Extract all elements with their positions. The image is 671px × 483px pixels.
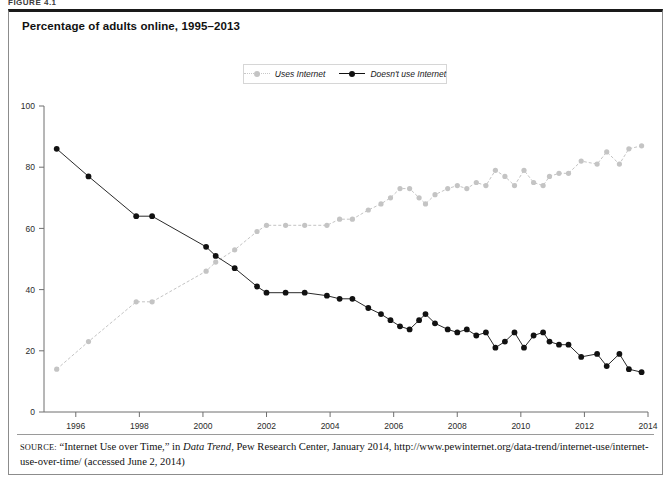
x-axis-tick-label: 2006 — [384, 421, 403, 431]
figure-page: FIGURE 4.1 Percentage of adults online, … — [0, 0, 671, 483]
data-point — [604, 149, 609, 154]
x-axis-tick-label: 2008 — [448, 421, 467, 431]
data-point — [254, 284, 260, 290]
data-point — [324, 223, 329, 228]
data-point — [86, 174, 92, 180]
line-chart: 0204060801001996199820002002200420062008… — [0, 0, 671, 483]
data-point — [445, 186, 450, 191]
data-point — [464, 186, 469, 191]
data-point — [203, 244, 209, 250]
data-point — [150, 299, 155, 304]
series-line — [57, 149, 642, 372]
data-point — [541, 183, 546, 188]
data-point — [324, 293, 330, 299]
data-point — [54, 146, 60, 152]
data-point — [502, 174, 507, 179]
data-point — [378, 201, 383, 206]
data-point — [213, 253, 219, 259]
data-point — [337, 217, 342, 222]
data-point — [302, 290, 308, 296]
y-axis-tick-label: 0 — [30, 407, 35, 417]
data-point — [454, 330, 460, 336]
data-point — [547, 174, 552, 179]
data-point — [521, 345, 527, 351]
data-point — [493, 345, 499, 351]
data-point — [134, 299, 139, 304]
data-point — [264, 290, 270, 296]
data-point — [54, 367, 59, 372]
data-point — [232, 265, 238, 271]
y-axis-tick-label: 60 — [26, 224, 36, 234]
data-point — [464, 327, 470, 333]
data-point — [594, 351, 600, 357]
data-point — [416, 317, 422, 323]
data-point — [264, 223, 269, 228]
data-point — [388, 195, 393, 200]
x-axis-tick-label: 2014 — [639, 421, 658, 431]
data-point — [626, 146, 631, 151]
x-axis-tick-label: 2010 — [511, 421, 530, 431]
data-point — [423, 311, 429, 317]
data-point — [455, 183, 460, 188]
data-point — [556, 171, 561, 176]
data-point — [337, 296, 343, 302]
x-axis-tick-label: 1998 — [130, 421, 149, 431]
data-point — [365, 305, 371, 311]
series-line — [57, 146, 642, 369]
data-point — [445, 327, 451, 333]
data-point — [540, 330, 546, 336]
data-point — [579, 159, 584, 164]
series-uses-internet — [54, 143, 644, 372]
data-point — [617, 351, 623, 357]
data-point — [578, 354, 584, 360]
x-axis-tick-label: 2012 — [575, 421, 594, 431]
source-text-1: “Internet Use over Time,” in — [57, 441, 183, 452]
data-point — [213, 260, 218, 265]
data-point — [556, 342, 562, 348]
data-point — [432, 320, 438, 326]
data-point — [639, 143, 644, 148]
data-point — [566, 342, 572, 348]
data-point — [232, 247, 237, 252]
data-point — [473, 333, 479, 339]
data-point — [204, 269, 209, 274]
data-point — [254, 229, 259, 234]
data-point — [639, 369, 645, 375]
data-point — [388, 317, 394, 323]
data-point — [566, 171, 571, 176]
x-axis-tick-label: 1996 — [66, 421, 85, 431]
data-point — [133, 213, 139, 219]
data-point — [512, 330, 518, 336]
data-point — [350, 217, 355, 222]
data-point — [283, 290, 289, 296]
y-axis-tick-label: 80 — [26, 162, 36, 172]
data-point — [432, 192, 437, 197]
series-doesnt-use-internet — [54, 146, 645, 375]
source-prefix: SOURCE: — [20, 443, 57, 452]
data-point — [531, 180, 536, 185]
source-note: SOURCE: “Internet Use over Time,” in Dat… — [20, 440, 652, 469]
source-divider — [17, 434, 654, 435]
x-axis-tick-label: 2000 — [193, 421, 212, 431]
data-point — [149, 213, 155, 219]
data-point — [512, 183, 517, 188]
data-point — [423, 201, 428, 206]
y-axis-tick-label: 100 — [21, 101, 35, 111]
data-point — [350, 296, 356, 302]
data-point — [397, 186, 402, 191]
data-point — [283, 223, 288, 228]
data-point — [417, 195, 422, 200]
data-point — [302, 223, 307, 228]
data-point — [521, 168, 526, 173]
chart-plot-area: 0204060801001996199820002002200420062008… — [0, 0, 671, 483]
data-point — [604, 363, 610, 369]
y-axis-tick-label: 20 — [26, 346, 36, 356]
data-point — [366, 207, 371, 212]
data-point — [397, 323, 403, 329]
data-point — [547, 339, 553, 345]
source-italic: Data Trend — [183, 441, 231, 452]
data-point — [378, 311, 384, 317]
data-point — [483, 183, 488, 188]
data-point — [483, 330, 489, 336]
data-point — [626, 366, 632, 372]
